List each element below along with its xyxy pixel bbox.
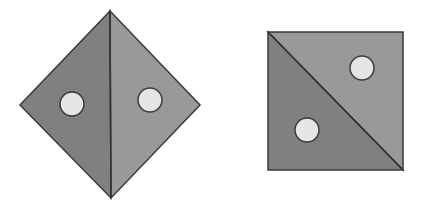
hole-circle	[138, 88, 162, 112]
diagram	[0, 0, 422, 211]
diamond-shape	[20, 11, 200, 198]
square-shape	[268, 32, 403, 170]
hole-circle	[60, 92, 84, 116]
diamond-fold-line	[110, 11, 111, 198]
hole-circle	[350, 56, 374, 80]
hole-circle	[295, 118, 319, 142]
